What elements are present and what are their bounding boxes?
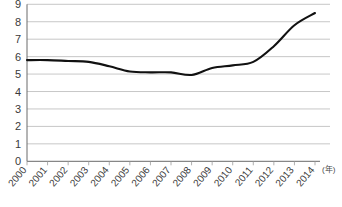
y-tick-label: 1 — [15, 138, 21, 150]
y-tick-label: 8 — [15, 16, 21, 28]
chart-svg: 0123456789 20002001200220032004200520062… — [0, 0, 342, 207]
y-tick-label: 7 — [15, 33, 21, 45]
y-tick-label: 3 — [15, 103, 21, 115]
y-tick-label: 2 — [15, 120, 21, 132]
line-chart: 0123456789 20002001200220032004200520062… — [0, 0, 342, 207]
y-tick-label: 9 — [15, 0, 21, 10]
y-tick-label: 6 — [15, 51, 21, 63]
y-tick-label: 5 — [15, 68, 21, 80]
x-axis-unit-label: (年) — [322, 164, 336, 174]
y-tick-label: 4 — [15, 86, 21, 98]
